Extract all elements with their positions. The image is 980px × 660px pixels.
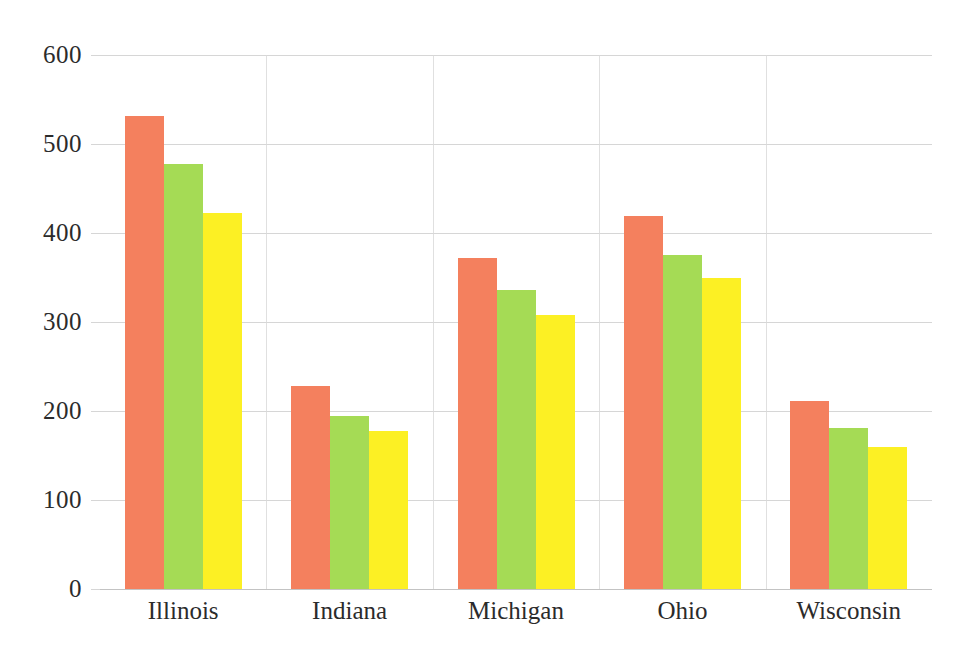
y-axis-tick-mark xyxy=(91,322,100,323)
y-axis-tick-label: 300 xyxy=(43,308,82,336)
y-axis-tick-mark xyxy=(91,233,100,234)
x-axis-tick-label: Ohio xyxy=(657,597,707,625)
bar xyxy=(868,447,907,589)
y-axis-tick-label: 200 xyxy=(43,397,82,425)
bar xyxy=(369,431,408,589)
x-axis-tick-label: Indiana xyxy=(312,597,387,625)
bar xyxy=(790,401,829,589)
bar xyxy=(458,258,497,589)
gridline-vertical xyxy=(433,55,434,589)
gridline-vertical xyxy=(266,55,267,589)
bar-group xyxy=(125,55,242,589)
y-axis-tick-mark xyxy=(91,589,100,590)
y-axis-tick-label: 100 xyxy=(43,486,82,514)
bar xyxy=(702,278,741,589)
y-axis-tick-mark xyxy=(91,55,100,56)
y-axis-tick-label: 0 xyxy=(69,575,82,603)
bar xyxy=(330,416,369,589)
y-axis-tick-labels: 0100200300400500600 xyxy=(0,55,82,589)
bar xyxy=(497,290,536,589)
bar xyxy=(624,216,663,589)
bar-group xyxy=(624,55,741,589)
bar-group xyxy=(458,55,575,589)
bar-group xyxy=(291,55,408,589)
y-axis-tick-label: 600 xyxy=(43,41,82,69)
gridline-vertical xyxy=(766,55,767,589)
y-axis-tick-label: 500 xyxy=(43,130,82,158)
x-axis-tick-labels: IllinoisIndianaMichiganOhioWisconsin xyxy=(100,597,932,637)
bar xyxy=(291,386,330,589)
plot-area xyxy=(100,55,932,589)
gridline-vertical xyxy=(599,55,600,589)
y-axis-tick-mark xyxy=(91,411,100,412)
bar xyxy=(125,116,164,589)
x-axis-tick-label: Illinois xyxy=(148,597,219,625)
bar xyxy=(203,213,242,589)
bar-group xyxy=(790,55,907,589)
bar xyxy=(536,315,575,589)
y-axis-tick-mark xyxy=(91,144,100,145)
bar xyxy=(829,428,868,589)
bar-chart: 0100200300400500600 IllinoisIndianaMichi… xyxy=(0,0,980,660)
x-axis-tick-label: Wisconsin xyxy=(797,597,902,625)
gridline-horizontal xyxy=(100,589,932,590)
y-axis-tick-mark xyxy=(91,500,100,501)
y-axis-tick-label: 400 xyxy=(43,219,82,247)
bar xyxy=(663,255,702,589)
bar xyxy=(164,164,203,589)
x-axis-tick-label: Michigan xyxy=(468,597,564,625)
